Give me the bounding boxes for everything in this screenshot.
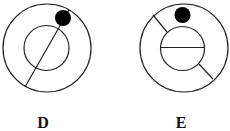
inner-circle (161, 27, 205, 71)
figure-label-d: D (37, 114, 49, 131)
black-dot (175, 7, 191, 23)
spoke-top-left (153, 15, 167, 32)
spoke-bottom-right (199, 64, 213, 79)
figure-canvas: D E (0, 0, 230, 131)
figure-e: E (140, 4, 228, 131)
inner-circle (24, 26, 69, 71)
figure-label-e: E (176, 114, 187, 131)
figure-d: D (3, 4, 91, 131)
black-dot (55, 10, 71, 26)
